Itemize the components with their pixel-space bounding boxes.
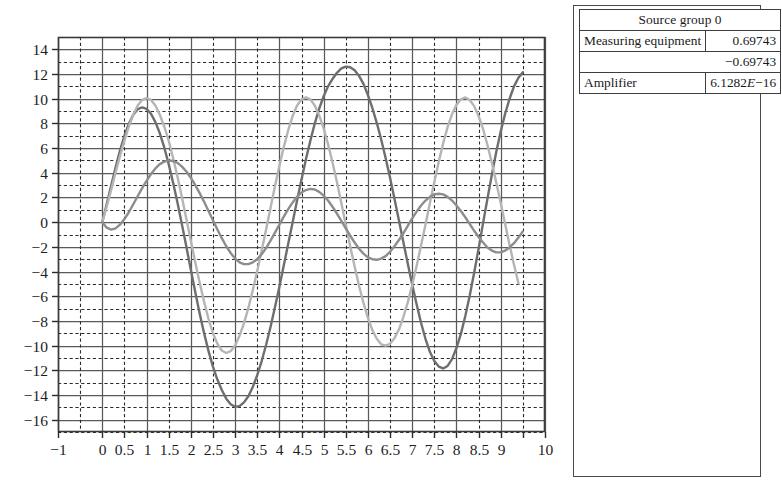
y-tick-label: −8 [32, 313, 49, 330]
row-value-measuring-equipment: 0.69743 [706, 31, 781, 52]
line-chart[interactable]: 14121086420−2−4−6−8−10−12−14−16−100.511.… [0, 0, 566, 496]
table-row-header: Source group 0 [580, 10, 781, 31]
screenshot-root: 14121086420−2−4−6−8−10−12−14−16−100.511.… [0, 0, 782, 496]
x-tick-label: 6.5 [381, 441, 401, 458]
y-tick-label: 14 [33, 41, 49, 58]
x-tick-label: −1 [50, 441, 67, 458]
x-tick-label: 1 [144, 441, 152, 458]
table-row: −0.69743 [580, 52, 781, 73]
row-value-amplifier: 6.1282E−16 [706, 73, 781, 94]
y-tick-label: 4 [40, 165, 48, 182]
amplifier-mantissa: 6.1282 [710, 75, 747, 90]
y-tick-label: −16 [24, 412, 48, 429]
row-value-measuring-equipment-negative: −0.69743 [580, 52, 781, 73]
table-row: Measuring equipment 0.69743 [580, 31, 781, 52]
y-tick-label: −6 [32, 288, 49, 305]
y-tick-label: 0 [40, 214, 48, 231]
y-tick-label: −12 [24, 362, 48, 379]
y-tick-label: −4 [32, 264, 49, 281]
x-tick-label: 7 [409, 441, 417, 458]
x-tick-label: 3.5 [248, 441, 268, 458]
x-tick-label: 1.5 [160, 441, 180, 458]
results-panel: Source group 0 Measuring equipment 0.697… [573, 5, 761, 477]
table-title: Source group 0 [580, 10, 781, 31]
y-tick-label: 2 [40, 189, 48, 206]
x-tick-label: 6 [365, 441, 373, 458]
x-tick-label: 2.5 [204, 441, 224, 458]
x-tick-label: 3 [232, 441, 240, 458]
row-label-amplifier: Amplifier [580, 73, 706, 94]
x-tick-label: 7.5 [425, 441, 445, 458]
table-row: Amplifier 6.1282E−16 [580, 73, 781, 94]
x-tick-label: 0 [99, 441, 107, 458]
x-tick-label: 5.5 [337, 441, 357, 458]
y-tick-label: 6 [40, 140, 48, 157]
x-tick-label: 10 [538, 441, 554, 458]
y-tick-label: −14 [24, 387, 48, 404]
source-group-table: Source group 0 Measuring equipment 0.697… [579, 9, 781, 94]
x-tick-label: 4.5 [293, 441, 313, 458]
y-tick-label: 12 [33, 66, 49, 83]
x-tick-label: 9 [498, 441, 506, 458]
x-tick-label: 8.5 [470, 441, 490, 458]
row-label-measuring-equipment: Measuring equipment [580, 31, 706, 52]
x-tick-label: 0.5 [115, 441, 135, 458]
amplifier-exponent-marker: E [747, 75, 755, 90]
x-tick-label: 2 [188, 441, 196, 458]
y-tick-label: 8 [40, 115, 48, 132]
y-tick-label: −10 [24, 338, 48, 355]
y-tick-label: −2 [32, 239, 49, 256]
x-tick-label: 4 [276, 441, 284, 458]
y-tick-label: 10 [33, 91, 49, 108]
chart-panel: 14121086420−2−4−6−8−10−12−14−16−100.511.… [0, 0, 566, 496]
x-tick-label: 5 [321, 441, 329, 458]
x-tick-label: 8 [453, 441, 461, 458]
amplifier-exponent: −16 [755, 75, 776, 90]
